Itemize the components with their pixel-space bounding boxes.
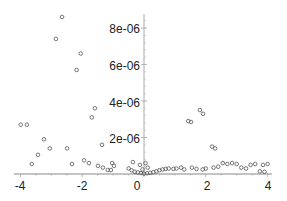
data-point — [48, 147, 52, 151]
data-point — [216, 165, 220, 169]
data-point — [212, 166, 216, 170]
y-tick-labels: 2e-06 4e-06 6e-06 8e-06 — [109, 22, 140, 146]
data-point — [110, 161, 114, 165]
data-point — [146, 166, 150, 170]
y-tick-label: 4e-06 — [109, 96, 140, 110]
data-point — [182, 168, 186, 172]
data-point — [36, 153, 40, 157]
data-point — [42, 138, 46, 142]
y-tick-label: 2e-06 — [109, 132, 140, 146]
data-point — [195, 167, 199, 171]
data-point — [19, 123, 23, 127]
data-point — [226, 162, 230, 166]
data-point — [65, 147, 69, 151]
data-point — [198, 108, 202, 112]
data-point — [240, 166, 244, 170]
data-point — [30, 162, 34, 166]
data-point — [138, 163, 142, 167]
y-tick-label: 6e-06 — [109, 59, 140, 73]
scatter-plot: -4 -2 0 2 4 2e-06 4e-06 6e-06 8e-06 — [0, 0, 287, 201]
x-tick-label: 2 — [204, 179, 211, 193]
data-point — [261, 163, 265, 167]
data-point — [190, 166, 194, 170]
data-point — [60, 15, 64, 19]
data-point — [131, 160, 135, 164]
y-tick-label: 8e-06 — [109, 22, 140, 36]
x-tick-label: -2 — [77, 179, 88, 193]
data-point — [253, 162, 257, 166]
data-point — [75, 68, 79, 72]
data-point — [235, 162, 239, 166]
data-point — [244, 167, 248, 171]
x-tick-label: 4 — [265, 179, 272, 193]
data-point — [230, 161, 234, 165]
data-point — [82, 159, 86, 163]
data-point — [96, 164, 100, 168]
data-point — [70, 162, 74, 166]
x-tick-labels: -4 -2 0 2 4 — [15, 179, 272, 193]
data-point — [54, 37, 58, 41]
data-point — [266, 162, 270, 166]
x-tick-label: 0 — [134, 179, 141, 193]
x-tick-label: -4 — [15, 179, 26, 193]
data-point — [263, 170, 267, 174]
data-point — [90, 116, 94, 120]
data-point — [213, 147, 217, 151]
data-point — [221, 161, 225, 165]
data-point — [201, 112, 205, 116]
data-point — [87, 161, 91, 165]
data-point — [79, 52, 83, 56]
data-point — [258, 170, 262, 174]
data-point — [249, 163, 253, 167]
data-point — [101, 166, 105, 170]
data-point — [93, 107, 97, 111]
data-point — [100, 143, 104, 147]
data-point — [25, 123, 29, 127]
